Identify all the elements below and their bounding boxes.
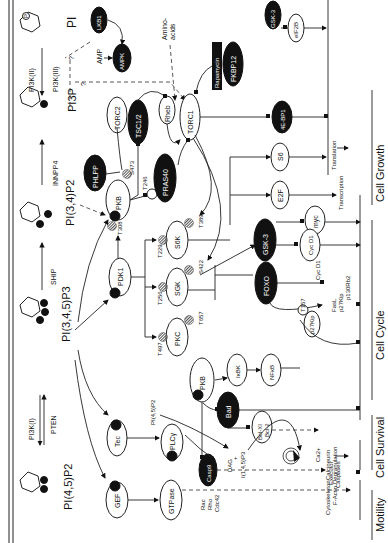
lipid-pi45p2 bbox=[20, 472, 48, 493]
svg-text:Rac: Rac bbox=[200, 499, 206, 510]
svg-text:Rapamycin: Rapamycin bbox=[214, 58, 220, 88]
svg-text:Cyc D1: Cyc D1 bbox=[315, 260, 321, 280]
lipid-pi345p3 bbox=[20, 297, 49, 324]
svg-text:FasL: FasL bbox=[331, 298, 337, 312]
svg-text:T497: T497 bbox=[157, 342, 163, 356]
svg-text:Casp9: Casp9 bbox=[206, 464, 212, 482]
svg-text:FOXO: FOXO bbox=[263, 276, 270, 296]
svg-text:GSK-3: GSK-3 bbox=[262, 234, 269, 255]
svg-text:LKB1: LKB1 bbox=[96, 15, 102, 30]
svg-text:AMPK: AMPK bbox=[119, 53, 125, 70]
svg-text:GTPase: GTPase bbox=[168, 488, 175, 514]
enzyme-pi3k1: PI3K(I) bbox=[28, 418, 36, 440]
svg-text:NFκB: NFκB bbox=[269, 365, 275, 380]
svg-text:?: ? bbox=[80, 82, 87, 86]
svg-text:S422: S422 bbox=[198, 259, 204, 274]
svg-text:T657: T657 bbox=[198, 311, 204, 325]
svg-text:p130Rb2: p130Rb2 bbox=[345, 275, 351, 300]
svg-text:GSK-3: GSK-3 bbox=[270, 9, 276, 28]
svg-text:PRAS40: PRAS40 bbox=[162, 169, 169, 196]
svg-text:I(1,4,5)P3: I(1,4,5)P3 bbox=[240, 451, 246, 478]
svg-text:Translation: Translation bbox=[331, 141, 337, 170]
svg-text:TORC2: TORC2 bbox=[114, 106, 121, 130]
category-cell-growth: Cell Growth bbox=[374, 145, 386, 202]
svg-text:PI(4,5)P2: PI(4,5)P2 bbox=[150, 399, 156, 425]
svg-text:Transcription: Transcription bbox=[338, 176, 344, 210]
svg-text:PDK1: PDK1 bbox=[117, 268, 124, 286]
svg-text:Bad: Bad bbox=[225, 405, 232, 418]
category-cell-survival: Cell Survival bbox=[374, 417, 386, 478]
svg-text:Tec: Tec bbox=[114, 436, 121, 447]
svg-text:Calcineurin: Calcineurin bbox=[325, 450, 331, 480]
svg-text:IκBK: IκBK bbox=[235, 365, 241, 378]
svg-text:PKB: PKB bbox=[199, 376, 206, 390]
svg-text:T246: T246 bbox=[142, 176, 148, 190]
svg-text:Rheb: Rheb bbox=[164, 105, 171, 122]
svg-text:S6: S6 bbox=[277, 152, 284, 161]
svg-text:TSC1/2: TSC1/2 bbox=[135, 114, 142, 138]
enzyme-pi3k2: PI3K(II) bbox=[28, 68, 36, 92]
svg-text:Cyc D1: Cyc D1 bbox=[308, 235, 314, 255]
enzyme-pten: PTEN bbox=[50, 415, 57, 434]
svg-text:PHLPP: PHLPP bbox=[92, 165, 99, 188]
label-pi3p: PI3P bbox=[66, 88, 78, 112]
svg-text:p27Kip: p27Kip bbox=[338, 293, 344, 312]
lipid-pi: P bbox=[20, 12, 40, 32]
svg-text:PLCγ: PLCγ bbox=[169, 432, 177, 450]
label-pi45p2: PI(4,5)P2 bbox=[62, 464, 74, 510]
svg-text:PKB: PKB bbox=[115, 196, 122, 210]
svg-text:Cdc42: Cdc42 bbox=[214, 494, 220, 512]
svg-text:Degranulation: Degranulation bbox=[332, 447, 338, 484]
lipid-pi34p2 bbox=[20, 202, 52, 228]
membrane bbox=[9, 0, 13, 543]
svg-text:TORC1: TORC1 bbox=[187, 110, 194, 134]
enzyme-innpp4: INNPP4 bbox=[52, 161, 59, 186]
svg-text:T308: T308 bbox=[117, 221, 123, 235]
svg-text:T157: T157 bbox=[300, 298, 306, 312]
svg-text:?: ? bbox=[68, 56, 75, 60]
svg-text:Ca2+: Ca2+ bbox=[315, 447, 321, 462]
svg-text:SGK: SGK bbox=[174, 281, 181, 296]
label-amp: AMP bbox=[96, 49, 103, 65]
svg-text:eIF2B: eIF2B bbox=[293, 22, 299, 38]
label-amino-acids-2: acids bbox=[169, 23, 176, 40]
svg-text:T389: T389 bbox=[198, 214, 204, 228]
label-pi345p3: PI(3,4,5)P3 bbox=[60, 286, 72, 342]
pi3k-signaling-diagram: P PI PI3P PI(3,4)P2 PI(3,4,5)P3 PI(4,5)P… bbox=[0, 0, 388, 543]
enzyme-pi3k3: PI3K(III) bbox=[52, 66, 60, 92]
svg-text:FKBP12: FKBP12 bbox=[230, 56, 237, 82]
svg-text:4E-BP1: 4E-BP1 bbox=[280, 109, 286, 130]
category-cell-cycle: Cell Cycle bbox=[374, 310, 386, 360]
enzyme-ship: SHIP bbox=[50, 268, 57, 285]
svg-text:S473: S473 bbox=[129, 160, 135, 175]
svg-text:PKC: PKC bbox=[174, 332, 181, 346]
svg-text:Rho: Rho bbox=[207, 498, 213, 510]
svg-text:S6K: S6K bbox=[174, 235, 181, 249]
label-pi34p2: PI(3,4)P2 bbox=[64, 180, 76, 226]
svg-text:T229: T229 bbox=[157, 244, 163, 258]
category-motility: Motility bbox=[374, 497, 386, 532]
svg-text:Cytoskeleton: Cytoskeleton bbox=[325, 480, 331, 515]
svg-text:P: P bbox=[23, 14, 29, 18]
svg-text:E2F: E2F bbox=[277, 189, 284, 202]
svg-text:F-Actin: F-Actin bbox=[332, 486, 338, 505]
svg-text:myc: myc bbox=[312, 215, 320, 228]
svg-text:GEF: GEF bbox=[114, 494, 121, 508]
label-amino-acids-1: Amino- bbox=[161, 17, 168, 40]
label-pi: PI bbox=[65, 17, 79, 28]
svg-text:T256: T256 bbox=[157, 291, 163, 305]
svg-text:+: + bbox=[232, 456, 238, 460]
